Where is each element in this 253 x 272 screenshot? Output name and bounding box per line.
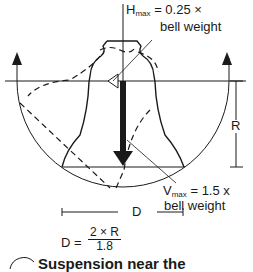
formula-fraction: 2 × R 1.8: [88, 226, 121, 253]
v-force-arrowhead-icon: [113, 151, 133, 166]
caption-text: Suspension near the: [38, 255, 186, 272]
caption-marker-icon: [10, 258, 34, 269]
h-leader-line: [113, 40, 152, 81]
v-leader-line: [127, 140, 176, 183]
v-force-shaft: [120, 81, 126, 151]
v-max-label-line2: bell weight: [164, 199, 225, 213]
formula-lhs: D =: [61, 236, 82, 250]
formula-denominator: 1.8: [88, 240, 121, 253]
formula-numerator: 2 × R: [88, 226, 121, 240]
r-dimension-label: R: [231, 119, 240, 133]
d-dimension-label: D: [132, 205, 141, 219]
h-max-label-line2: bell weight: [160, 20, 221, 34]
left-arc-arrow-icon: [12, 52, 22, 65]
right-arc-arrow-icon: [222, 52, 232, 65]
